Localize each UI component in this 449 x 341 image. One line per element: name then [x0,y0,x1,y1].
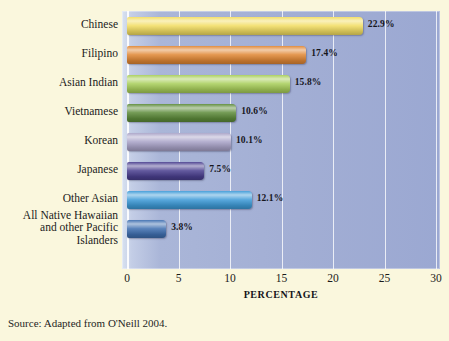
bar-chart-figure: ChineseFilipinoAsian IndianVietnameseKor… [0,0,449,341]
category-label: Japanese [77,163,118,176]
bar-row [122,156,440,185]
x-tick-0: 0 [107,272,147,284]
bar [127,75,290,93]
bar-value-label: 22.9% [368,19,395,29]
category-label: Asian Indian [59,76,118,89]
x-tick-20: 20 [313,272,353,284]
x-tick-5: 5 [159,272,199,284]
bar [127,46,306,64]
bar [127,133,231,151]
bar-value-label: 10.1% [236,135,263,145]
x-axis-title: PERCENTAGE [122,289,440,300]
bar-value-label: 15.8% [295,77,322,87]
bar [127,104,236,122]
bar-value-label: 17.4% [311,48,338,58]
source-note: Source: Adapted from O'Neill 2004. [8,317,167,329]
bar-value-label: 10.6% [241,106,268,116]
bar [127,220,166,238]
category-label: Chinese [81,18,118,31]
x-tick-30: 30 [416,272,449,284]
bar-row [122,214,440,243]
bar-row [122,69,440,98]
category-label: Korean [84,134,118,147]
category-label: Other Asian [63,192,118,205]
bar-row [122,98,440,127]
bar-row [122,40,440,69]
bar-row [122,127,440,156]
x-tick-10: 10 [210,272,250,284]
category-label: Filipino [82,47,118,60]
bar-value-label: 3.8% [171,222,193,232]
bar [127,17,363,35]
x-tick-15: 15 [262,272,302,284]
bar-value-label: 7.5% [209,164,231,174]
category-label: Vietnamese [64,105,118,118]
x-tick-25: 25 [365,272,405,284]
bar-value-label: 12.1% [257,193,284,203]
bar [127,191,252,209]
category-label: All Native Hawaiian and other Pacific Is… [23,209,118,247]
bar [127,162,204,180]
plot-area [122,11,440,269]
